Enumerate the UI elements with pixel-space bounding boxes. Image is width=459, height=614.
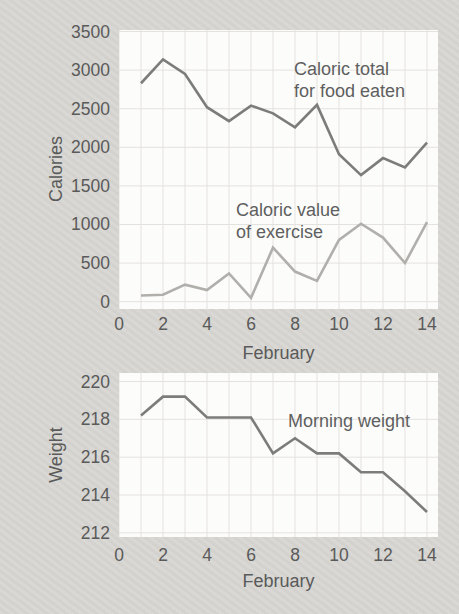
- series-annotation-line: Morning weight: [288, 410, 410, 432]
- x-tick-label: 4: [187, 545, 227, 565]
- y-tick-label: 216: [38, 447, 110, 467]
- weight-plot-area: [119, 373, 438, 537]
- x-tick-label: 10: [319, 314, 359, 334]
- x-tick-label: 8: [275, 314, 315, 334]
- x-tick-label: 12: [363, 314, 403, 334]
- x-tick-label: 8: [275, 545, 315, 565]
- x-tick-label: 6: [231, 314, 271, 334]
- series-annotation: Caloric totalfor food eaten: [294, 58, 405, 102]
- y-tick-label: 218: [38, 409, 110, 429]
- x-tick-label: 2: [143, 545, 183, 565]
- y-tick-label: 500: [38, 253, 110, 273]
- series-annotation: Caloric valueof exercise: [236, 199, 340, 243]
- y-tick-label: 2000: [38, 137, 110, 157]
- x-tick-label: 10: [319, 545, 359, 565]
- series-annotation-line: Caloric value: [236, 199, 340, 221]
- y-tick-label: 1500: [38, 176, 110, 196]
- y-tick-label: 214: [38, 485, 110, 505]
- y-tick-label: 212: [38, 523, 110, 543]
- y-tick-label: 2500: [38, 99, 110, 119]
- y-tick-label: 3500: [38, 22, 110, 42]
- y-tick-label: 0: [38, 292, 110, 312]
- x-tick-label: 2: [143, 314, 183, 334]
- x-tick-label: 0: [99, 545, 139, 565]
- weight-x-axis-title: February: [119, 571, 438, 592]
- x-tick-label: 14: [407, 314, 447, 334]
- diet-log-charts: Calories February Weight February 350030…: [0, 0, 459, 614]
- y-tick-label: 220: [38, 372, 110, 392]
- x-tick-label: 14: [407, 545, 447, 565]
- y-tick-label: 1000: [38, 214, 110, 234]
- series-annotation-line: of exercise: [236, 221, 340, 243]
- x-tick-label: 0: [99, 314, 139, 334]
- series-annotation-line: Caloric total: [294, 58, 405, 80]
- x-tick-label: 6: [231, 545, 271, 565]
- calories-x-axis-title: February: [119, 343, 438, 364]
- x-tick-label: 12: [363, 545, 403, 565]
- series-annotation: Morning weight: [288, 410, 410, 432]
- series-annotation-line: for food eaten: [294, 80, 405, 102]
- y-tick-label: 3000: [38, 60, 110, 80]
- x-tick-label: 4: [187, 314, 227, 334]
